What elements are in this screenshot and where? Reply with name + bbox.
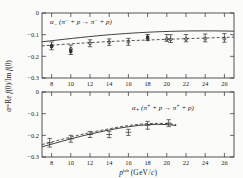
- xtick-24: 24: [202, 80, 209, 87]
- xtick-18-b: 18: [144, 159, 150, 166]
- top-data-filled-points: [50, 34, 149, 54]
- bottom-panel-y-ticks: [42, 92, 234, 157]
- bottom-data-points: [47, 120, 172, 147]
- bottom-panel-annotation: α+ (π+ + p → π+ + p): [132, 103, 194, 113]
- xtick-16-b: 16: [125, 159, 131, 166]
- svg-text:α+ (π+ + p → π+ + p): α+ (π+ + p → π+ + p): [132, 103, 194, 113]
- ytick-0: 0: [36, 9, 39, 16]
- xtick-26: 26: [221, 80, 227, 87]
- xtick-26-b: 26: [221, 159, 227, 166]
- xtick-10-b: 10: [68, 159, 74, 166]
- bottom-panel-x-ticklabels: 8 10 12 14 16 18 20 22 24 26: [50, 159, 228, 166]
- ytick-3: −0.3: [27, 74, 39, 81]
- ytick-3-b: −0.3: [27, 153, 39, 160]
- xtick-14: 14: [106, 80, 113, 87]
- xtick-12: 12: [87, 80, 93, 87]
- top-panel-annotation: α− (π− + p → π− + p): [50, 17, 112, 27]
- bottom-panel: 0 −0.1 −0.2 −0.3: [27, 88, 234, 166]
- bottom-panel-x-ticks: [52, 92, 225, 157]
- top-panel-x-ticklabels: 8 10 12 14 16 18 20 22 24 26: [50, 80, 228, 87]
- xtick-24-b: 24: [202, 159, 209, 166]
- bottom-panel-frame: [42, 92, 234, 157]
- x-axis-label: plab (G eV / c): [118, 168, 157, 177]
- xtick-18: 18: [144, 80, 150, 87]
- figure-container: α=Re f(0)/Im f(0) 0 −0.1 −0.2: [0, 0, 243, 178]
- xtick-20: 20: [164, 80, 170, 87]
- top-panel-y-ticklabels: 0 −0.1 −0.2 −0.3: [27, 9, 39, 81]
- svg-text:α=Re f(0)/Im f(0): α=Re f(0)/Im f(0): [4, 60, 13, 112]
- bottom-panel-y-ticklabels: 0 −0.1 −0.2 −0.3: [27, 88, 39, 160]
- ytick-2-b: −0.2: [27, 132, 39, 139]
- xtick-8-b: 8: [50, 159, 53, 166]
- top-panel: 0 −0.1 −0.2 −0.3: [27, 9, 234, 87]
- xtick-14-b: 14: [106, 159, 113, 166]
- xtick-8: 8: [50, 80, 53, 87]
- xtick-10: 10: [68, 80, 74, 87]
- xtick-22: 22: [183, 80, 189, 87]
- ytick-2: −0.2: [27, 53, 39, 60]
- ytick-1: −0.1: [27, 31, 39, 38]
- ytick-0-b: 0: [36, 88, 39, 95]
- xtick-12-b: 12: [87, 159, 93, 166]
- xtick-22-b: 22: [183, 159, 189, 166]
- svg-text:plab (G eV / c): plab (G eV / c): [118, 168, 157, 177]
- xtick-16: 16: [125, 80, 131, 87]
- svg-text:α− (π− + p → π− + p): α− (π− + p → π− + p): [50, 17, 112, 27]
- top-data-open-points: [49, 34, 226, 55]
- physics-plot-svg: α=Re f(0)/Im f(0) 0 −0.1 −0.2: [0, 0, 243, 178]
- y-axis-label: α=Re f(0)/Im f(0): [4, 60, 13, 112]
- xtick-20-b: 20: [164, 159, 170, 166]
- ytick-1-b: −0.1: [27, 110, 39, 117]
